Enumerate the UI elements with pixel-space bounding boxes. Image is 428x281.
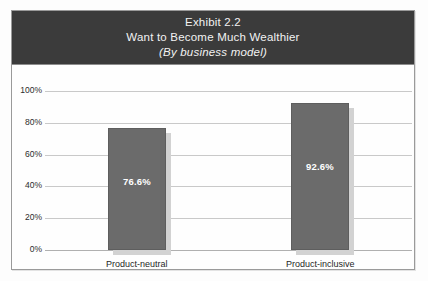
figure-subtitle: (By business model) xyxy=(12,45,414,60)
y-axis-tick-label: 100% xyxy=(12,86,42,95)
bar xyxy=(291,103,349,250)
chart-screenshot: Exhibit 2.2 Want to Become Much Wealthie… xyxy=(0,0,428,281)
gridline xyxy=(45,218,412,219)
y-axis-tick-label: 60% xyxy=(12,150,42,159)
bar-value-label: 92.6% xyxy=(291,162,349,172)
figure-title: Want to Become Much Wealthier xyxy=(12,30,414,45)
bar-value-label: 76.6% xyxy=(108,177,166,187)
y-axis-tick-label: 20% xyxy=(12,213,42,222)
category-label: Product-neutral xyxy=(45,259,229,270)
category-label: Product-inclusive xyxy=(229,259,413,270)
gridline xyxy=(45,250,412,251)
figure-title-band: Exhibit 2.2 Want to Become Much Wealthie… xyxy=(12,11,414,65)
plot-area: 100%80%60%40%20%0% 76.6%92.6% Product-ne… xyxy=(12,65,414,269)
y-axis-tick-label: 40% xyxy=(12,181,42,190)
gridline xyxy=(45,123,412,124)
exhibit-label: Exhibit 2.2 xyxy=(12,15,414,30)
y-axis-tick-label: 80% xyxy=(12,118,42,127)
figure-frame: Exhibit 2.2 Want to Become Much Wealthie… xyxy=(11,10,415,270)
gridline xyxy=(45,186,412,187)
y-axis-tick-label: 0% xyxy=(12,245,42,254)
gridline xyxy=(45,155,412,156)
bar xyxy=(108,128,166,250)
gridline xyxy=(45,91,412,92)
